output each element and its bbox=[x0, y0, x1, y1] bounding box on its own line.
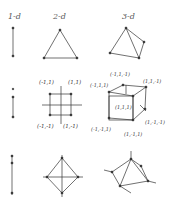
label-cube-right: (1,1,-1) bbox=[143, 78, 161, 84]
label-sq-se: (1,-1) bbox=[63, 123, 78, 129]
label-cube-center: (1,1,1) bbox=[115, 104, 132, 110]
label-sq-sw: (-1,-1) bbox=[37, 123, 54, 129]
label-sq-nw: (-1,1) bbox=[39, 79, 54, 85]
label-cube-left: (-1,1,1) bbox=[90, 82, 108, 88]
label-sq-ne: (1,1) bbox=[68, 79, 81, 85]
coordinate-labels: (-1,1) (1,1) (-1,-1) (1,-1) (-1,1,-1) (-… bbox=[0, 0, 172, 201]
label-cube-bl: (-1,-1,1) bbox=[91, 126, 111, 132]
label-cube-top: (-1,1,-1) bbox=[110, 71, 130, 77]
label-cube-bottom: (1,-1,1) bbox=[124, 131, 142, 137]
label-cube-br: (1,-1,-1) bbox=[145, 119, 165, 125]
